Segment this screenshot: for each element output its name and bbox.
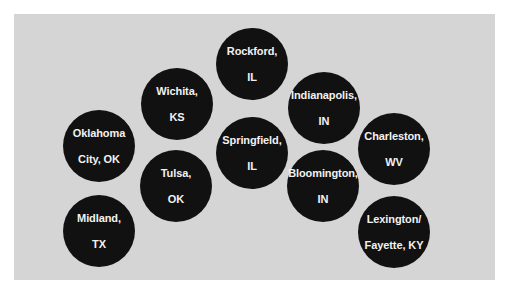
city-label: Wichita, KS bbox=[156, 72, 197, 137]
city-name: Oklahoma bbox=[73, 127, 125, 140]
city-label: Rockford, IL bbox=[227, 32, 277, 97]
city-state: IN bbox=[288, 193, 358, 206]
city-name: Bloomington, bbox=[288, 167, 358, 180]
city-name: Rockford, bbox=[227, 45, 277, 58]
city-name: Midland, bbox=[77, 212, 121, 225]
city-label: Tulsa, OK bbox=[161, 154, 191, 219]
city-name: Tulsa, bbox=[161, 167, 191, 180]
city-circle-charleston: Charleston, WV bbox=[358, 113, 430, 185]
city-circle-rockford: Rockford, IL bbox=[216, 28, 288, 100]
city-circle-lexington-fayette: Lexington/ Fayette, KY bbox=[358, 196, 430, 268]
city-label: Lexington/ Fayette, KY bbox=[365, 200, 424, 265]
city-state: IN bbox=[291, 115, 357, 128]
city-label: Springfield, IL bbox=[222, 121, 281, 186]
city-label: Charleston, WV bbox=[364, 117, 423, 182]
city-label: Oklahoma City, OK bbox=[73, 114, 125, 179]
city-circle-springfield: Springfield, IL bbox=[216, 117, 288, 189]
city-state: Fayette, KY bbox=[365, 239, 424, 252]
city-label: Indianapolis, IN bbox=[291, 76, 357, 141]
city-state: IL bbox=[227, 71, 277, 84]
city-circle-wichita: Wichita, KS bbox=[141, 68, 213, 140]
city-circle-tulsa: Tulsa, OK bbox=[140, 150, 212, 222]
city-label: Midland, TX bbox=[77, 199, 121, 264]
city-circle-indianapolis: Indianapolis, IN bbox=[288, 72, 360, 144]
city-state: OK bbox=[161, 193, 191, 206]
city-state: WV bbox=[364, 156, 423, 169]
city-name: Springfield, bbox=[222, 134, 281, 147]
city-circle-bloomington: Bloomington, IN bbox=[287, 150, 359, 222]
city-name: Charleston, bbox=[364, 130, 423, 143]
city-label: Bloomington, IN bbox=[288, 154, 358, 219]
city-state: IL bbox=[222, 160, 281, 173]
city-circle-midland: Midland, TX bbox=[63, 195, 135, 267]
city-circle-oklahoma-city: Oklahoma City, OK bbox=[63, 110, 135, 182]
city-state: City, OK bbox=[73, 153, 125, 166]
city-name: Lexington/ bbox=[365, 213, 424, 226]
city-state: KS bbox=[156, 111, 197, 124]
city-name: Indianapolis, bbox=[291, 89, 357, 102]
city-name: Wichita, bbox=[156, 85, 197, 98]
city-state: TX bbox=[77, 238, 121, 251]
